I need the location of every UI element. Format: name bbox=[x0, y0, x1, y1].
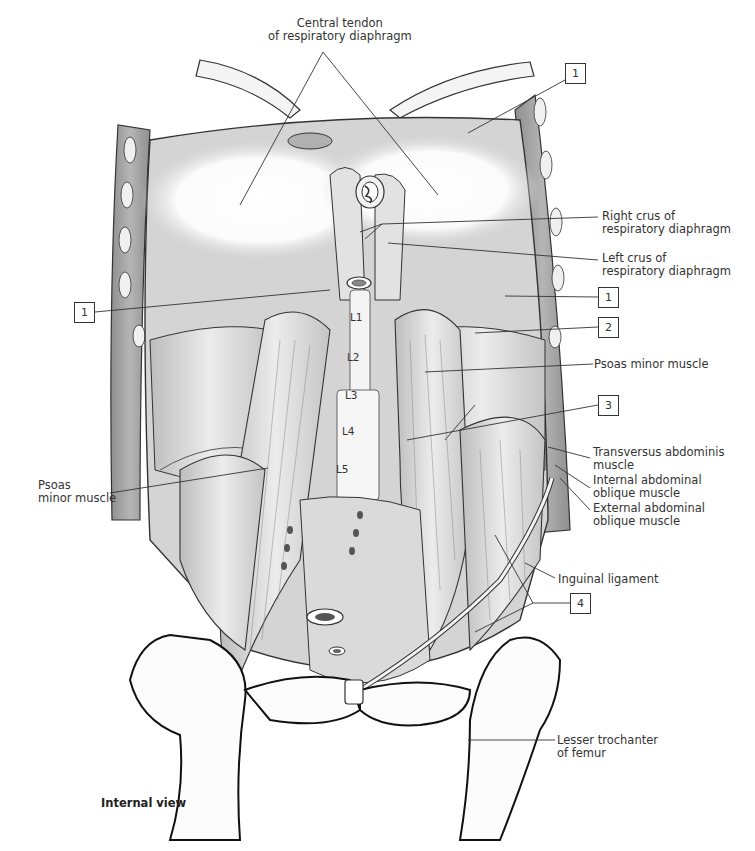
label-line: oblique muscle bbox=[593, 487, 702, 500]
label-line: of femur bbox=[557, 747, 658, 760]
label-transversus-abdominis: Transversus abdominis muscle bbox=[593, 446, 724, 472]
label-inguinal-ligament: Inguinal ligament bbox=[558, 573, 658, 586]
label-lesser-trochanter: Lesser trochanter of femur bbox=[557, 734, 658, 760]
caval-opening bbox=[288, 133, 332, 149]
label-internal-oblique: Internal abdominal oblique muscle bbox=[593, 474, 702, 500]
number-box-1-left: 1 bbox=[74, 302, 95, 323]
number-box-3: 3 bbox=[598, 395, 619, 416]
esophagus-opening bbox=[356, 176, 384, 208]
label-central-tendon: Central tendon of respiratory diaphragm bbox=[268, 17, 412, 43]
label-psoas-minor-left: Psoas minor muscle bbox=[38, 479, 116, 505]
label-line: Inguinal ligament bbox=[558, 573, 658, 586]
left-abdominal-wall bbox=[111, 125, 150, 520]
view-caption: Internal view bbox=[101, 796, 186, 810]
label-external-oblique: External abdominal oblique muscle bbox=[593, 502, 705, 528]
pubic-symphysis bbox=[345, 680, 363, 704]
number-box-4: 4 bbox=[570, 593, 591, 614]
label-line: minor muscle bbox=[38, 492, 116, 505]
number-box-1-right: 1 bbox=[598, 287, 619, 308]
label-psoas-minor-right: Psoas minor muscle bbox=[594, 358, 709, 371]
vertebra-label-l3: L3 bbox=[345, 389, 358, 401]
number-box-2: 2 bbox=[598, 317, 619, 338]
anatomy-figure: Central tendon of respiratory diaphragm … bbox=[0, 0, 755, 851]
vertebra-label-l2: L2 bbox=[347, 351, 360, 363]
vertebra-label-l5: L5 bbox=[336, 463, 349, 475]
label-line: respiratory diaphragm bbox=[602, 223, 731, 236]
vertebra-label-l4: L4 bbox=[342, 425, 355, 437]
label-line: oblique muscle bbox=[593, 515, 705, 528]
label-line: muscle bbox=[593, 459, 724, 472]
ribs bbox=[196, 60, 534, 118]
vertebra-label-l1: L1 bbox=[350, 311, 363, 323]
label-left-crus: Left crus of respiratory diaphragm bbox=[602, 252, 731, 278]
label-line: Psoas minor muscle bbox=[594, 358, 709, 371]
label-line: of respiratory diaphragm bbox=[268, 30, 412, 43]
number-box-1-top: 1 bbox=[565, 63, 586, 84]
label-line: respiratory diaphragm bbox=[602, 265, 731, 278]
label-right-crus: Right crus of respiratory diaphragm bbox=[602, 210, 731, 236]
posterior-abdominal-wall-illustration bbox=[0, 0, 755, 851]
